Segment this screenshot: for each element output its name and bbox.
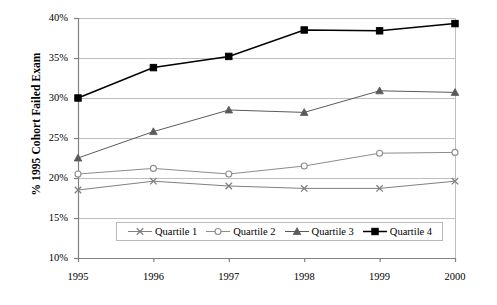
legend-entry-2: Quartile 2: [205, 226, 275, 237]
y-axis-tick-label: 30%: [28, 93, 68, 103]
x-axis-tick-label: 1999: [350, 272, 410, 282]
square-marker: [372, 228, 378, 234]
y-axis-tick-label: 35%: [28, 53, 68, 63]
legend-label: Quartile 3: [312, 226, 354, 237]
legend-entry-1: Quartile 1: [127, 226, 197, 237]
circle-marker: [226, 171, 232, 177]
x-axis-tick-label: 1996: [123, 272, 183, 282]
square-marker: [301, 27, 307, 33]
x-axis-tick-label: 2000: [425, 272, 485, 282]
circle-marker: [215, 229, 221, 235]
circle-marker: [301, 163, 307, 169]
circle-marker: [150, 165, 156, 171]
y-axis-tick-label: 20%: [28, 173, 68, 183]
square-marker: [226, 53, 232, 59]
x-marker: [127, 226, 153, 237]
square-marker: [376, 28, 382, 34]
square-marker: [150, 64, 156, 70]
legend-label: Quartile 4: [390, 226, 432, 237]
legend-entry-3: Quartile 3: [284, 226, 354, 237]
circle-marker: [377, 150, 383, 156]
y-axis-tick-label: 25%: [28, 133, 68, 143]
line-chart: % 1995 Cohort Failed Exam 40%35%30%25%20…: [0, 0, 497, 305]
chart-legend: Quartile 1Quartile 2Quartile 3Quartile 4: [116, 222, 443, 241]
y-axis-title: % 1995 Cohort Failed Exam: [30, 14, 42, 234]
x-axis-tick-label: 1995: [48, 272, 108, 282]
circle-marker: [205, 226, 231, 237]
x-axis-tick-label: 1998: [274, 272, 334, 282]
plot-area: [0, 0, 497, 305]
circle-marker: [75, 171, 81, 177]
legend-label: Quartile 1: [155, 226, 197, 237]
y-axis-tick-label: 15%: [28, 213, 68, 223]
legend-entry-4: Quartile 4: [362, 226, 432, 237]
y-axis-tick-label: 40%: [28, 13, 68, 23]
circle-marker: [452, 149, 458, 155]
x-axis-tick-label: 1997: [199, 272, 259, 282]
square-marker: [75, 95, 81, 101]
square-marker: [452, 20, 458, 26]
y-axis-tick-label: 10%: [28, 253, 68, 263]
triangle-marker: [284, 226, 310, 237]
square-marker: [362, 226, 388, 237]
legend-label: Quartile 2: [233, 226, 275, 237]
